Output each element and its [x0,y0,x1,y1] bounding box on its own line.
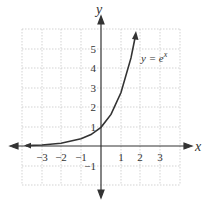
svg-text:2: 2 [137,151,143,163]
y-axis-up-arrow-icon [98,16,104,24]
svg-text:3: 3 [91,82,97,94]
svg-text:3: 3 [157,151,163,163]
svg-text:2: 2 [91,101,97,113]
svg-text:−2: −2 [55,151,67,163]
x-axis-left-arrow-icon [10,143,18,149]
y-axis-label: y [94,2,103,17]
y-axis-down-arrow-icon [98,190,104,198]
curve-up-arrow-icon [132,31,139,40]
exponential-graph: y x −3 −2 −1 1 2 3 5 4 3 2 1 −1 y = ex [0,0,205,208]
svg-text:−1: −1 [84,160,96,172]
svg-text:4: 4 [91,62,97,74]
curve-left-arrow-icon [24,143,31,149]
x-axis-label: x [194,139,202,154]
svg-text:5: 5 [91,43,97,55]
svg-text:1: 1 [91,121,97,133]
x-tick-labels: −3 −2 −1 1 2 3 [36,151,163,163]
equation-label: y = ex [140,50,168,64]
svg-text:−3: −3 [36,151,48,163]
svg-text:1: 1 [118,151,124,163]
x-axis-right-arrow-icon [184,143,192,149]
